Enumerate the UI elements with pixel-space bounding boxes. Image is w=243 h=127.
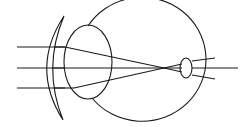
exit-rays (192, 58, 238, 79)
converging-rays (52, 47, 182, 88)
eye-optics-diagram (0, 0, 243, 127)
eyeball-outline (88, 0, 206, 121)
